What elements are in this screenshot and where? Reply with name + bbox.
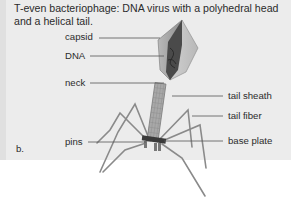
capsid-shape — [158, 20, 198, 80]
tail-sheath-shape — [147, 83, 166, 142]
base-plate-shape — [142, 135, 166, 151]
label-dna: DNA — [65, 50, 85, 61]
label-neck: neck — [65, 77, 85, 88]
label-base-plate: base plate — [228, 135, 272, 146]
label-tail-fiber: tail fiber — [228, 110, 262, 121]
label-capsid: capsid — [65, 31, 93, 42]
panel-label: b. — [16, 143, 24, 154]
bacteriophage-illustration — [0, 0, 291, 203]
label-pins: pins — [65, 136, 83, 147]
label-tail-sheath: tail sheath — [228, 90, 272, 101]
